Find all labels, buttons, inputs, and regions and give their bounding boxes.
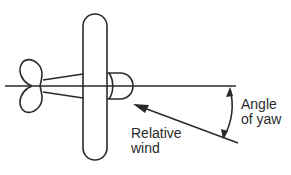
tail-upper-lobe [20,60,42,86]
angle-of-yaw-label-line2: of yaw [241,112,281,127]
angle-of-yaw-label: Angle of yaw [241,97,281,127]
wing [83,14,107,160]
angle-arrowhead-top [226,87,233,97]
fuselage-bottom-edge [43,92,83,98]
relative-wind-label: Relative wind [131,126,182,156]
relative-wind-label-line2: wind [131,141,182,156]
tail-lower-lobe [20,86,42,112]
fuselage-top-edge [43,74,83,80]
relative-wind-label-line1: Relative [131,126,182,141]
relative-wind-arrowhead [133,104,149,113]
angle-of-yaw-label-line1: Angle [241,97,281,112]
yaw-diagram: Relative wind Angle of yaw [0,0,291,175]
